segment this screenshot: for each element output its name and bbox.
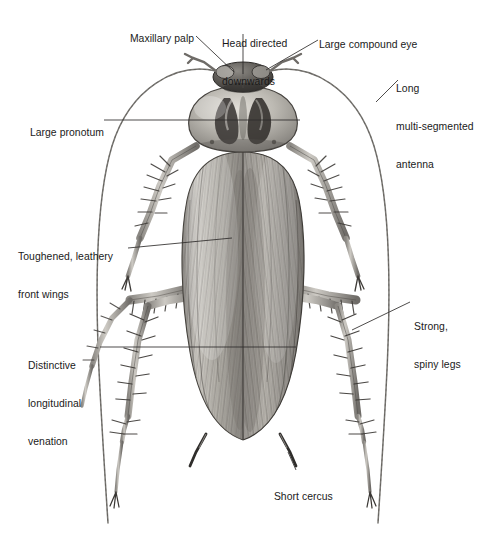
label-front-wings-line-1: front wings <box>18 289 113 302</box>
hindleg-left <box>110 296 196 508</box>
label-long-antenna-line-2: antenna <box>396 159 474 172</box>
label-distinctive-longitudinal-venation: Distinctive longitudinal venation <box>28 335 81 461</box>
label-head-directed-downwards-line-0: Head directed <box>222 38 287 51</box>
label-toughened-leathery-front-wings: Toughened, leathery front wings <box>18 226 113 314</box>
cercus-right <box>280 434 296 466</box>
label-venation-line-1: longitudinal <box>28 398 81 411</box>
label-spiny-legs-line-1: spiny legs <box>414 359 461 372</box>
label-head-directed-downwards-line-1: downwards <box>222 76 287 89</box>
label-large-pronotum: Large pronotum <box>24 114 104 139</box>
label-long-multi-segmented-antenna: Long multi-segmented antenna <box>396 58 474 184</box>
label-long-antenna-line-1: multi-segmented <box>396 121 474 134</box>
label-strong-spiny-legs: Strong, spiny legs <box>414 296 461 384</box>
label-front-wings-line-0: Toughened, leathery <box>18 251 113 264</box>
label-maxillary-palp-line-0: Maxillary palp <box>130 33 194 44</box>
label-long-antenna-line-0: Long <box>396 83 474 96</box>
front-wing-right <box>235 147 308 445</box>
hindleg-right <box>290 296 376 508</box>
label-spiny-legs-line-0: Strong, <box>414 321 461 334</box>
cercus-left <box>190 434 206 466</box>
leader-long-antenna <box>376 80 398 102</box>
label-short-cercus: Short cercus <box>268 478 333 503</box>
label-large-compound-eye-line-0: Large compound eye <box>319 39 418 50</box>
leader-strong-spiny-legs <box>352 302 410 330</box>
label-large-compound-eye: Large compound eye <box>313 26 417 51</box>
label-large-pronotum-line-0: Large pronotum <box>30 127 104 138</box>
label-head-directed-downwards: Head directed downwards <box>222 13 287 101</box>
figure-canvas: Maxillary palp Head directed downwards L… <box>0 0 486 540</box>
label-venation-line-2: venation <box>28 436 81 449</box>
label-maxillary-palp: Maxillary palp <box>124 20 194 45</box>
label-venation-line-0: Distinctive <box>28 360 81 373</box>
label-short-cercus-line-0: Short cercus <box>274 491 333 502</box>
